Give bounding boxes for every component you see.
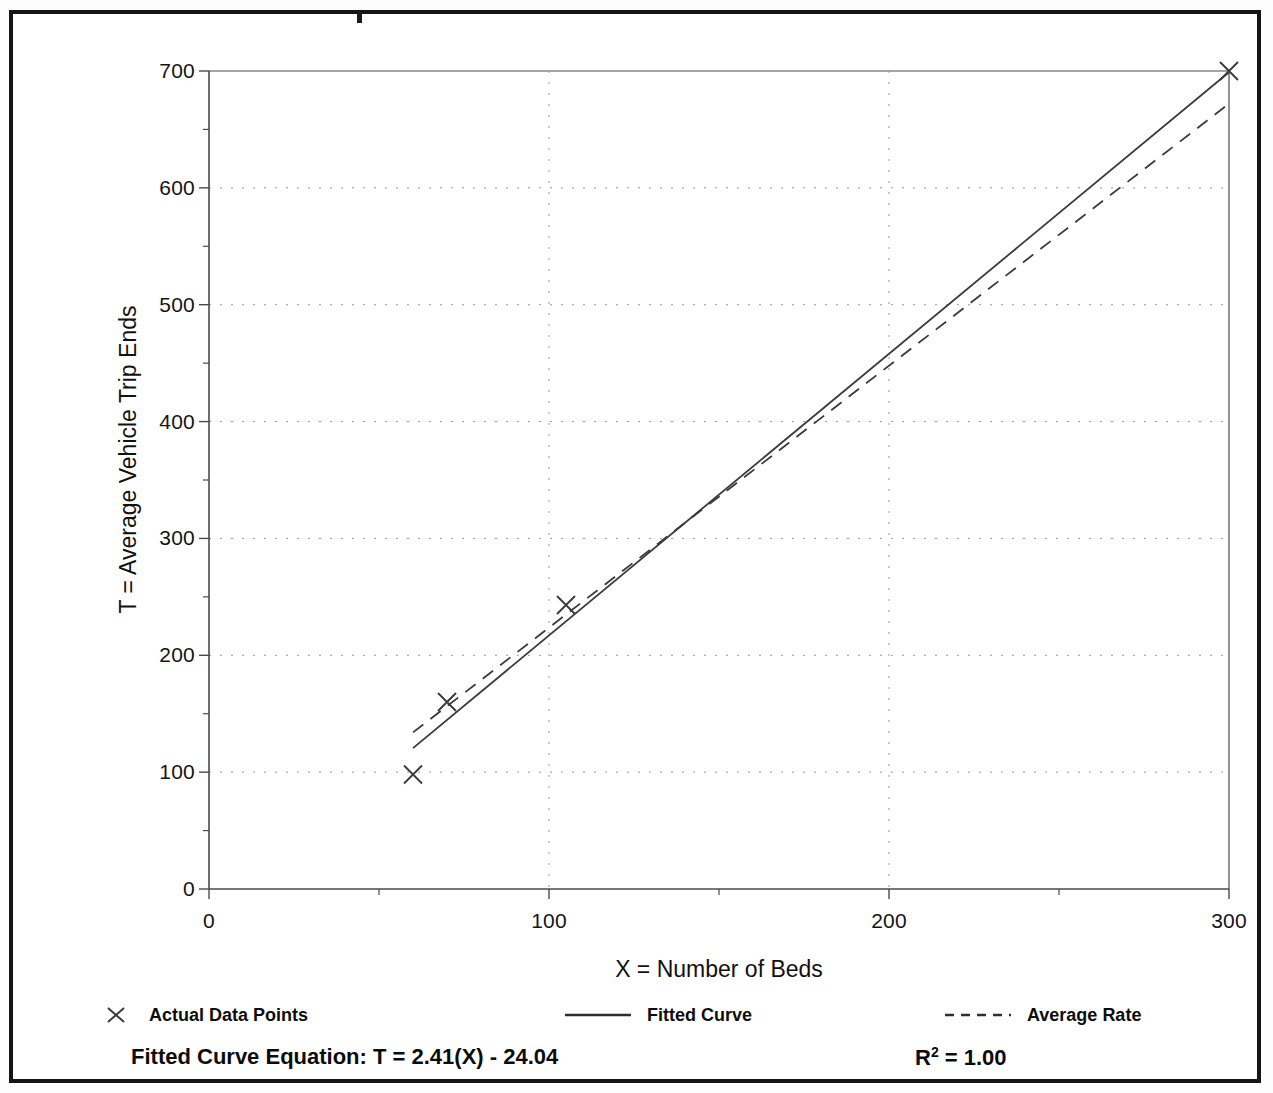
plot-svg — [209, 71, 1229, 889]
r-squared-value: R2 = 1.00 — [915, 1044, 1007, 1071]
r-squared-exponent: 2 — [931, 1044, 939, 1060]
axis-layer — [199, 71, 1229, 899]
scan-artifact — [357, 14, 362, 23]
y-tick-label-700: 700 — [135, 60, 195, 81]
series-layer — [413, 72, 1229, 748]
series-line-fitted-curve — [413, 72, 1229, 748]
r-squared-number: = 1.00 — [939, 1045, 1007, 1070]
r-squared-symbol: R — [915, 1045, 931, 1070]
y-tick-label-200: 200 — [135, 644, 195, 665]
data-point-markers — [404, 62, 1238, 783]
y-tick-label-600: 600 — [135, 177, 195, 198]
legend-item-fitted-curve: Fitted Curve — [563, 997, 752, 1033]
x-tick-label-0: 0 — [169, 910, 249, 931]
y-tick-label-400: 400 — [135, 411, 195, 432]
fitted-curve-equation: Fitted Curve Equation: T = 2.41(X) - 24.… — [131, 1044, 558, 1070]
data-point-2 — [557, 596, 575, 614]
grid-layer — [209, 71, 1229, 889]
x-axis-title: X = Number of Beds — [209, 956, 1229, 983]
x-tick-label-200: 200 — [849, 910, 929, 931]
x-tick-label-100: 100 — [509, 910, 589, 931]
y-tick-label-0: 0 — [135, 878, 195, 899]
series-line-average-rate — [413, 104, 1229, 733]
data-point-0 — [404, 765, 422, 783]
legend-item-actual-data-points: Actual Data Points — [101, 997, 308, 1033]
equation-footer: Fitted Curve Equation: T = 2.41(X) - 24.… — [43, 1042, 1233, 1082]
x-tick-label-300: 300 — [1189, 910, 1269, 931]
legend-label-fitted-curve: Fitted Curve — [647, 1005, 752, 1026]
x-marker-icon — [404, 765, 422, 783]
solid-line-icon — [563, 1002, 633, 1028]
figure-root: T = Average Vehicle Trip Ends 0100200300… — [0, 0, 1273, 1093]
x-marker-icon — [101, 1002, 135, 1028]
chart-legend: Actual Data Points Fitted Curve Average … — [43, 997, 1233, 1033]
y-tick-label-100: 100 — [135, 761, 195, 782]
legend-item-average-rate: Average Rate — [943, 997, 1141, 1033]
dashed-line-icon — [943, 1002, 1013, 1028]
plot-area — [209, 71, 1229, 889]
y-tick-label-300: 300 — [135, 527, 195, 548]
y-axis-title-container: T = Average Vehicle Trip Ends — [83, 14, 123, 914]
legend-label-average-rate: Average Rate — [1027, 1005, 1141, 1026]
x-marker-icon — [557, 596, 575, 614]
y-axis-tick-labels: 0100200300400500600700 — [133, 71, 195, 889]
y-tick-label-500: 500 — [135, 294, 195, 315]
x-axis-tick-labels: 0100200300 — [209, 910, 1229, 936]
figure-frame: T = Average Vehicle Trip Ends 0100200300… — [9, 10, 1261, 1083]
legend-label-actual-data-points: Actual Data Points — [149, 1005, 308, 1026]
